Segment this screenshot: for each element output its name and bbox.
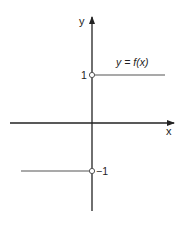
step-function-graph: y x 1 −1 y = f(x) [0, 0, 184, 225]
x-axis-label: x [166, 125, 172, 137]
tick-label-minus-one: −1 [96, 165, 108, 177]
function-label: y = f(x) [115, 56, 148, 68]
tick-label-one: 1 [81, 69, 87, 81]
y-axis-label: y [79, 15, 85, 27]
open-circle-negative [89, 168, 94, 173]
open-circle-positive [89, 72, 94, 77]
